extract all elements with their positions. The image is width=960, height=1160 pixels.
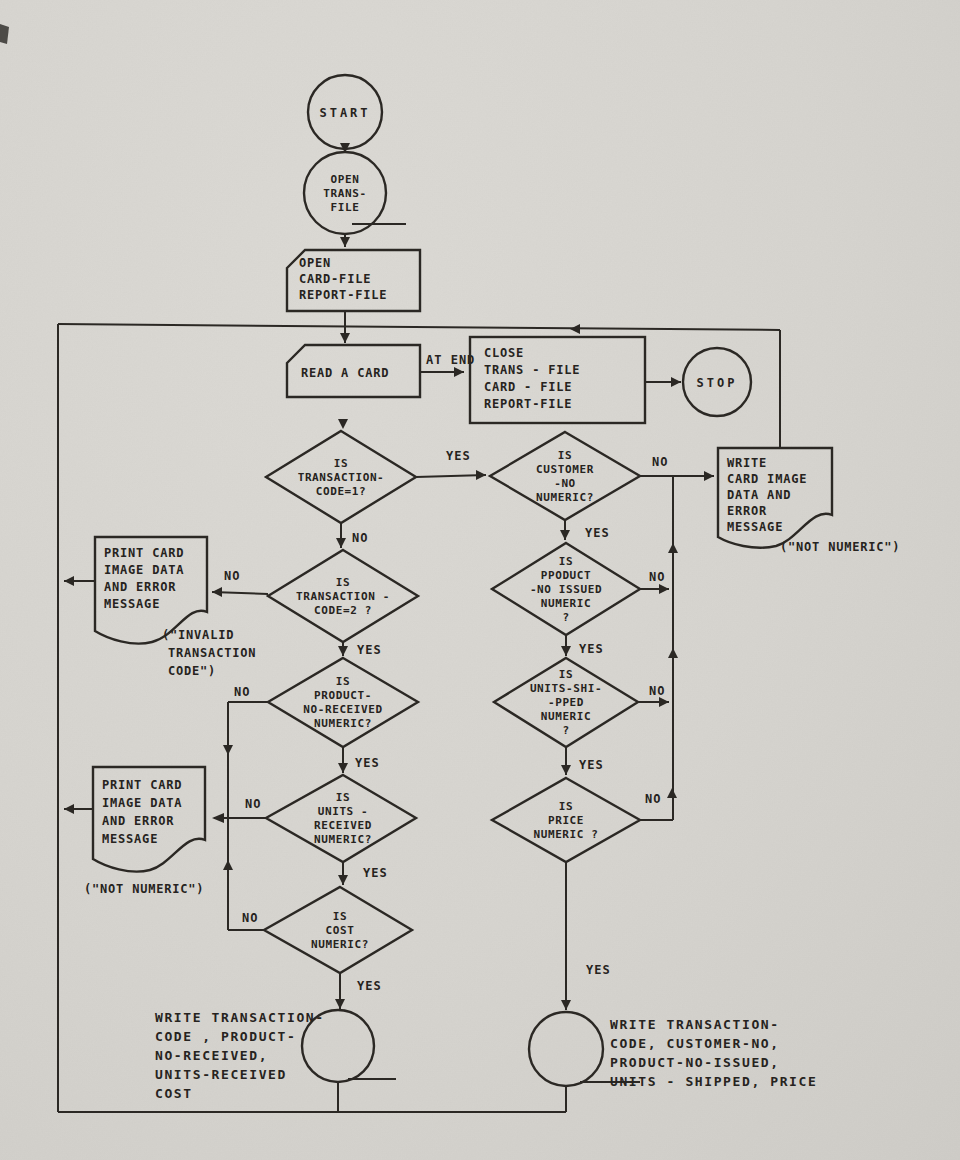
- decision-line: NUMERIC?: [314, 717, 372, 730]
- open-trans-line: OPEN: [331, 173, 360, 186]
- decision-line: PPODUCT: [541, 569, 592, 582]
- document-line: IMAGE DATA: [102, 796, 182, 810]
- document-line: MESSAGE: [104, 597, 160, 611]
- decision-line: NUMERIC ?: [533, 828, 598, 841]
- document-line: PRINT CARD: [104, 546, 184, 560]
- flowchart-canvas: START OPEN TRANS- FILE OPEN CARD-FILE RE…: [0, 0, 960, 1160]
- decision-line: NUMERIC: [541, 597, 592, 610]
- document-line: WRITE: [727, 456, 767, 470]
- yes-label: YES: [586, 963, 611, 977]
- document-line: AND ERROR: [102, 814, 174, 828]
- decision-line: NUMERIC?: [311, 938, 369, 951]
- decision-line: NUMERIC: [541, 710, 592, 723]
- decision-line: PRODUCT-: [314, 689, 372, 702]
- document-line: MESSAGE: [727, 520, 783, 534]
- decision-line: IS: [559, 800, 573, 813]
- no-label: NO: [652, 455, 668, 469]
- yes-label: YES: [363, 866, 388, 880]
- decision-line: -NO: [554, 477, 576, 490]
- decision-line: IS: [336, 675, 350, 688]
- read-card-label: READ A CARD: [301, 366, 389, 380]
- decision-line: TRANSACTION-: [298, 471, 385, 484]
- open-trans-line: TRANS-: [323, 187, 366, 200]
- decision-line: CUSTOMER: [536, 463, 594, 476]
- close-files-line: CARD - FILE: [484, 380, 572, 394]
- decision-line: CODE=2 ?: [314, 604, 372, 617]
- no-label: NO: [649, 570, 665, 584]
- decision-line: UNITS-SHI-: [530, 682, 602, 695]
- decision-line: TRANSACTION -: [296, 590, 390, 603]
- at-end-label: AT END: [426, 353, 475, 367]
- document-line: IMAGE DATA: [104, 563, 184, 577]
- document-caption: CODE"): [168, 664, 216, 678]
- decision-line: CODE=1?: [316, 485, 367, 498]
- no-label: NO: [234, 685, 250, 699]
- yes-label: YES: [355, 756, 380, 770]
- yes-label: YES: [446, 449, 471, 463]
- yes-label: YES: [579, 642, 604, 656]
- decision-line: NUMERIC?: [536, 491, 594, 504]
- no-label: NO: [245, 797, 261, 811]
- decision-line: RECEIVED: [314, 819, 372, 832]
- document-line: DATA AND: [727, 488, 791, 502]
- write-annotation-line: WRITE TRANSACTION-: [610, 1017, 780, 1032]
- write-annotation-line: CODE , PRODUCT-: [155, 1029, 296, 1044]
- decision-line: IS: [559, 555, 573, 568]
- yes-label: YES: [357, 643, 382, 657]
- decision-line: IS: [336, 791, 350, 804]
- decision-line: COST: [326, 924, 355, 937]
- document-caption: ("NOT NUMERIC"): [780, 540, 900, 554]
- document-caption: TRANSACTION: [168, 646, 256, 660]
- stop-label: STOP: [697, 376, 738, 390]
- decision-line: IS: [333, 910, 347, 923]
- no-label: NO: [649, 684, 665, 698]
- document-line: CARD IMAGE: [727, 472, 807, 486]
- open-files-line: OPEN: [299, 256, 331, 270]
- write-annotation-line: UNITS - SHIPPED, PRICE: [610, 1074, 817, 1089]
- decision-line: IS: [558, 449, 572, 462]
- write-annotation-line: PRODUCT-NO-ISSUED,: [610, 1055, 780, 1070]
- document-caption: ("INVALID: [162, 628, 234, 642]
- write-annotation-line: NO-RECEIVED,: [155, 1048, 268, 1063]
- document-line: MESSAGE: [102, 832, 158, 846]
- no-label: NO: [224, 569, 240, 583]
- decision-line: NO-RECEIVED: [303, 703, 382, 716]
- yes-label: YES: [579, 758, 604, 772]
- write-annotation-line: WRITE TRANSACTION-: [155, 1010, 325, 1025]
- close-files-line: CLOSE: [484, 346, 524, 360]
- open-files-line: CARD-FILE: [299, 272, 371, 286]
- document-line: PRINT CARD: [102, 778, 182, 792]
- no-label: NO: [352, 531, 368, 545]
- write-annotation-line: UNITS-RECEIVED: [155, 1067, 287, 1082]
- start-label: START: [319, 106, 370, 120]
- write-annotation-line: COST: [155, 1086, 193, 1101]
- decision-line: -NO ISSUED: [530, 583, 602, 596]
- decision-line: ?: [562, 724, 569, 737]
- decision-line: -PPED: [548, 696, 584, 709]
- yes-label: YES: [585, 526, 610, 540]
- decision-line: IS: [559, 668, 573, 681]
- decision-line: NUMERIC?: [314, 833, 372, 846]
- document-line: AND ERROR: [104, 580, 176, 594]
- document-line: ERROR: [727, 504, 767, 518]
- yes-label: YES: [357, 979, 382, 993]
- write-annotation-line: CODE, CUSTOMER-NO,: [610, 1036, 780, 1051]
- decision-line: IS: [336, 576, 350, 589]
- document-caption: ("NOT NUMERIC"): [84, 882, 204, 896]
- decision-line: IS: [334, 457, 348, 470]
- no-label: NO: [242, 911, 258, 925]
- close-files-line: TRANS - FILE: [484, 363, 580, 377]
- decision-line: UNITS -: [318, 805, 369, 818]
- scanned-flowchart-page: START OPEN TRANS- FILE OPEN CARD-FILE RE…: [0, 0, 960, 1160]
- decision-line: PRICE: [548, 814, 584, 827]
- close-files-line: REPORT-FILE: [484, 397, 572, 411]
- open-files-line: REPORT-FILE: [299, 288, 387, 302]
- no-label: NO: [645, 792, 661, 806]
- open-trans-line: FILE: [331, 201, 360, 214]
- decision-line: ?: [562, 611, 569, 624]
